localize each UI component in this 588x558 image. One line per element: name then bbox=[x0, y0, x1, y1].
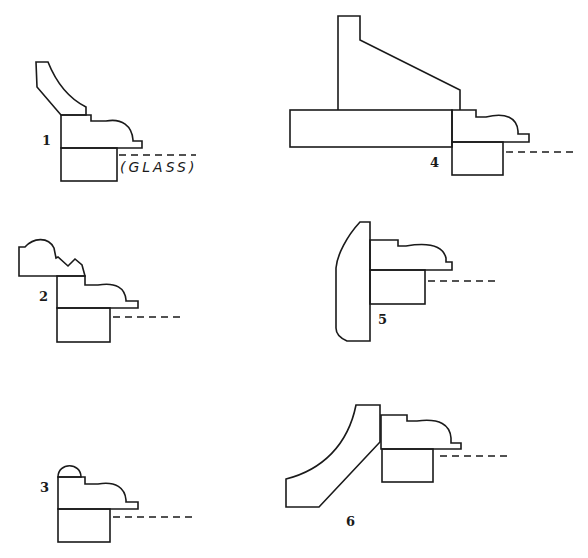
bead bbox=[58, 466, 81, 477]
figure-label: 3 bbox=[40, 480, 49, 495]
figure-4: 4 bbox=[290, 16, 577, 175]
casing bbox=[336, 222, 370, 341]
backband bbox=[338, 16, 460, 110]
sash-bottom bbox=[382, 449, 433, 482]
glass-annotation: (GLASS) bbox=[120, 159, 197, 175]
sash-profile bbox=[61, 115, 142, 148]
plank bbox=[290, 110, 452, 147]
figure-6: 6 bbox=[286, 405, 508, 529]
figure-label: 4 bbox=[430, 155, 439, 170]
sash-bottom bbox=[58, 509, 110, 542]
ogee-crown bbox=[19, 240, 85, 276]
sash-bottom bbox=[370, 270, 425, 304]
profiles-drawing: (GLASS) 1 2 3 4 5 6 bbox=[0, 0, 588, 558]
sash-profile bbox=[452, 110, 529, 142]
figure-2: 2 bbox=[19, 240, 182, 342]
figure-1: (GLASS) 1 bbox=[36, 62, 197, 181]
diagram-canvas: (GLASS) 1 2 3 4 5 6 bbox=[0, 0, 588, 558]
figure-label: 5 bbox=[378, 312, 387, 327]
figure-label: 2 bbox=[39, 289, 48, 304]
sash-profile bbox=[370, 240, 452, 270]
figure-5: 5 bbox=[336, 222, 498, 341]
sash-profile bbox=[57, 276, 138, 308]
figure-label: 1 bbox=[42, 133, 51, 148]
sash-bottom bbox=[61, 148, 117, 181]
sash-profile bbox=[381, 415, 461, 449]
sash-profile bbox=[58, 477, 138, 509]
sash-bottom bbox=[452, 142, 503, 175]
sash-bottom bbox=[57, 308, 110, 342]
figure-3: 3 bbox=[40, 466, 193, 542]
cove-crown bbox=[286, 405, 380, 507]
crown-molding bbox=[36, 62, 86, 115]
figure-label: 6 bbox=[346, 514, 355, 529]
